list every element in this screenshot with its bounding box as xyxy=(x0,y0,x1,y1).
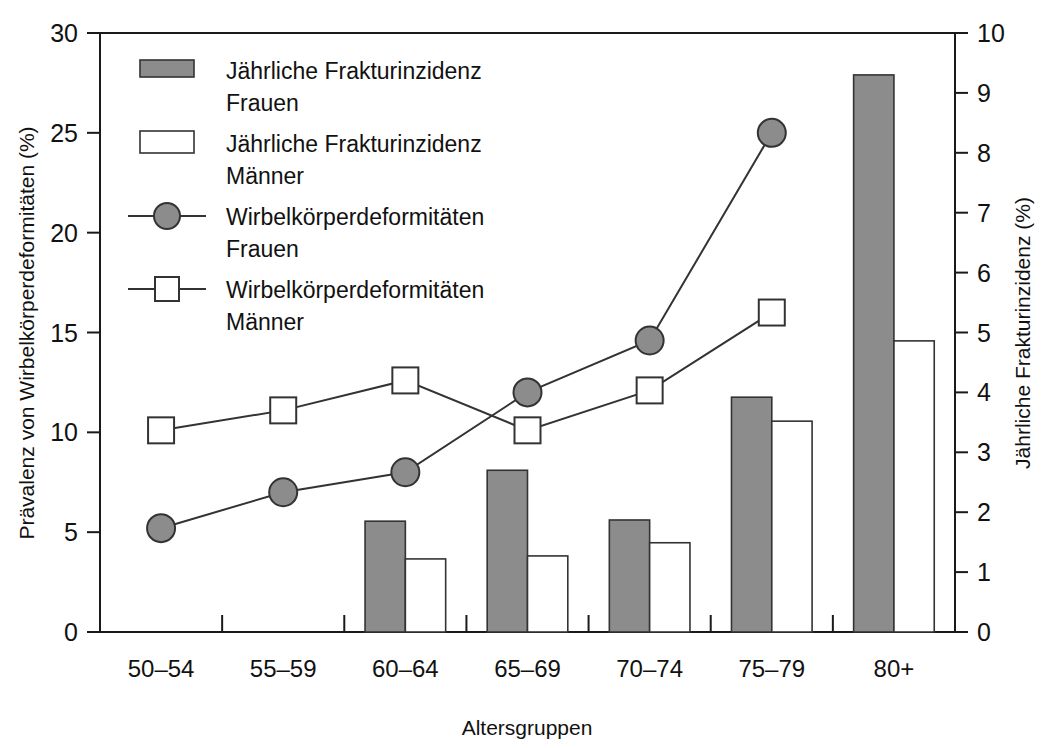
category-label: 55–59 xyxy=(250,655,317,682)
legend-item: WirbelkörperdeformitätenFrauen xyxy=(128,203,484,262)
category-label: 70–74 xyxy=(616,655,683,682)
square-marker xyxy=(148,417,174,443)
legend-label-line1: Wirbelkörperdeformitäten xyxy=(226,204,484,230)
right-tick-label: 6 xyxy=(977,259,991,287)
legend-swatch-filled-circle xyxy=(154,203,180,229)
left-axis-ticks: 051015202530 xyxy=(50,19,100,646)
left-tick-label: 10 xyxy=(50,418,78,446)
category-label: 65–69 xyxy=(494,655,561,682)
bar xyxy=(405,559,445,632)
legend-item: Jährliche FrakturinzidenzMänner xyxy=(140,131,482,189)
circle-marker xyxy=(391,458,419,486)
legend-item: Jährliche FrakturinzidenzFrauen xyxy=(140,58,482,116)
right-tick-label: 8 xyxy=(977,139,991,167)
right-tick-label: 10 xyxy=(977,19,1005,47)
bar xyxy=(487,470,527,632)
square-marker xyxy=(637,377,663,403)
right-tick-label: 4 xyxy=(977,378,991,406)
x-axis-title: Altersgruppen xyxy=(462,716,593,739)
circle-marker xyxy=(514,378,542,406)
circle-marker xyxy=(758,119,786,147)
bar xyxy=(854,75,894,632)
legend-label-line2: Frauen xyxy=(226,236,299,262)
circle-marker xyxy=(636,326,664,354)
right-tick-label: 2 xyxy=(977,498,991,526)
legend-label-line1: Wirbelkörperdeformitäten xyxy=(226,277,484,303)
square-marker xyxy=(270,397,296,423)
square-marker xyxy=(759,300,785,326)
legend-label-line1: Jährliche Frakturinzidenz xyxy=(226,131,482,157)
category-labels: 50–5455–5960–6465–6970–7475–7980+ xyxy=(128,655,915,682)
y-axis-title: Prävalenz von Wirbelkörperdeformitäten (… xyxy=(15,126,38,539)
category-label: 50–54 xyxy=(128,655,195,682)
left-tick-label: 5 xyxy=(64,518,78,546)
circle-marker xyxy=(147,514,175,542)
left-tick-label: 20 xyxy=(50,219,78,247)
left-tick-label: 15 xyxy=(50,319,78,347)
legend-label-line1: Jährliche Frakturinzidenz xyxy=(226,58,482,84)
bar xyxy=(528,556,568,632)
chart-figure: 051015202530 012345678910 50–5455–5960–6… xyxy=(0,0,1055,748)
right-axis-ticks: 012345678910 xyxy=(955,19,1005,646)
category-label: 80+ xyxy=(874,655,915,682)
bar xyxy=(365,521,405,632)
right-tick-label: 0 xyxy=(977,618,991,646)
legend-label-line2: Frauen xyxy=(226,90,299,116)
left-tick-label: 0 xyxy=(64,618,78,646)
right-tick-label: 5 xyxy=(977,319,991,347)
chart-legend: Jährliche FrakturinzidenzFrauenJährliche… xyxy=(128,58,484,335)
left-tick-label: 30 xyxy=(50,19,78,47)
category-label: 60–64 xyxy=(372,655,439,682)
bar xyxy=(609,520,649,632)
dual-axis-bar-line-chart: 051015202530 012345678910 50–5455–5960–6… xyxy=(0,0,1055,748)
legend-item: WirbelkörperdeformitätenMänner xyxy=(128,277,484,335)
square-marker xyxy=(392,367,418,393)
right-tick-label: 3 xyxy=(977,438,991,466)
legend-label-line2: Männer xyxy=(226,309,304,335)
right-tick-label: 1 xyxy=(977,558,991,586)
legend-swatch-open-bar xyxy=(140,131,194,153)
left-tick-label: 25 xyxy=(50,119,78,147)
category-label: 75–79 xyxy=(738,655,805,682)
right-tick-label: 9 xyxy=(977,79,991,107)
bar xyxy=(731,397,771,632)
circle-marker xyxy=(269,478,297,506)
bar xyxy=(772,421,812,632)
right-tick-label: 7 xyxy=(977,199,991,227)
y2-axis-title: Jährliche Frakturinzidenz (%) xyxy=(1011,197,1034,469)
bar xyxy=(650,543,690,632)
legend-swatch-open-square xyxy=(155,277,179,301)
bar xyxy=(894,341,934,632)
legend-swatch-filled-bar xyxy=(140,60,194,77)
legend-label-line2: Männer xyxy=(226,163,304,189)
square-marker xyxy=(515,417,541,443)
